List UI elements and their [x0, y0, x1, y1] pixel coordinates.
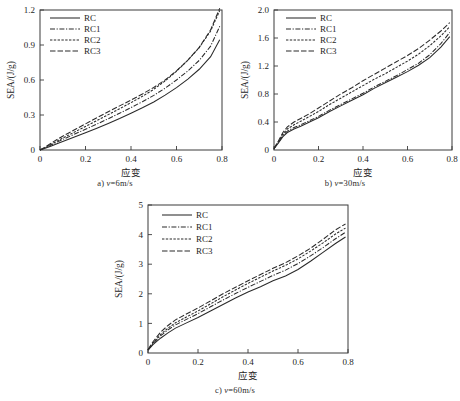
x-axis-label: 应变 [353, 167, 373, 178]
x-tick-label: 0.2 [313, 154, 324, 164]
y-tick-label: 2 [139, 289, 144, 299]
y-tick-label: 0.3 [24, 110, 36, 120]
legend-label-rc2: RC2 [84, 35, 101, 45]
x-tick-label: 0.6 [292, 357, 304, 367]
series-line-rc1 [40, 26, 220, 150]
y-tick-label: 2.0 [258, 5, 270, 15]
x-tick-label: 0.8 [446, 154, 458, 164]
caption-b-value: =30m/s [339, 178, 366, 188]
chart-b-plot: 00.20.40.60.800.40.81.21.62.0应变SEA/(J/g)… [230, 0, 460, 178]
series-line-rc1 [274, 32, 450, 148]
series-line-rc [274, 37, 450, 149]
figure-container: 00.20.40.60.800.30.60.91.2应变SEA/(J/g)RCR… [0, 0, 460, 401]
series-line-rc3 [274, 23, 450, 149]
caption-c-value: =60m/s [228, 385, 255, 395]
x-tick-label: 0.6 [402, 154, 414, 164]
x-axis-label: 应变 [121, 167, 141, 178]
series-line-rc2 [40, 11, 220, 150]
y-tick-label: 1 [139, 319, 144, 329]
caption-a-prefix: a) [97, 178, 104, 188]
x-tick-label: 0 [38, 154, 43, 164]
legend: RCRC1RC2RC3 [50, 13, 101, 56]
legend: RCRC1RC2RC3 [162, 210, 213, 256]
series-line-rc1 [148, 232, 346, 350]
legend-label-rc3: RC3 [84, 46, 101, 56]
caption-b-prefix: b) [325, 178, 332, 188]
y-tick-label: 0.8 [258, 89, 270, 99]
chart-a-plot: 00.20.40.60.800.30.60.91.2应变SEA/(J/g)RCR… [0, 0, 230, 178]
series-line-rc [148, 237, 346, 350]
x-tick-label: 0.8 [216, 154, 228, 164]
x-tick-label: 0.4 [125, 154, 137, 164]
y-tick-label: 0 [31, 145, 36, 155]
x-axis-label: 应变 [238, 370, 258, 381]
y-tick-label: 1.2 [258, 61, 269, 71]
x-tick-label: 0.2 [80, 154, 91, 164]
caption-c-prefix: c) [215, 385, 222, 395]
chart-panel-b: 00.20.40.60.800.40.81.21.62.0应变SEA/(J/g)… [230, 0, 460, 192]
caption-c: c) v=60m/s [110, 385, 360, 395]
legend-label-rc: RC [196, 210, 208, 220]
series-line-rc3 [148, 224, 346, 350]
plot-frame [40, 10, 222, 150]
y-tick-label: 3 [139, 259, 144, 269]
x-tick-label: 0 [146, 357, 151, 367]
legend-label-rc1: RC1 [196, 222, 213, 232]
x-tick-label: 0.4 [357, 154, 369, 164]
legend-label-rc3: RC3 [196, 246, 213, 256]
legend-label-rc1: RC1 [320, 24, 337, 34]
y-axis-label: SEA/(J/g) [6, 61, 17, 99]
x-tick-label: 0.4 [242, 357, 254, 367]
plot-frame [274, 10, 452, 150]
y-tick-label: 1.6 [258, 33, 270, 43]
legend-label-rc1: RC1 [84, 24, 101, 34]
y-tick-label: 0 [139, 348, 144, 358]
chart-c-plot: 00.20.40.60.8012345应变SEA/(J/g)RCRC1RC2RC… [110, 195, 360, 385]
legend-label-rc2: RC2 [320, 35, 337, 45]
x-tick-label: 0 [272, 154, 277, 164]
y-tick-label: 4 [139, 230, 144, 240]
y-tick-label: 0.4 [258, 117, 270, 127]
y-axis-label: SEA/(J/g) [114, 260, 125, 298]
x-tick-label: 0.2 [192, 357, 203, 367]
chart-panel-a: 00.20.40.60.800.30.60.91.2应变SEA/(J/g)RCR… [0, 0, 230, 192]
chart-panel-c: 00.20.40.60.8012345应变SEA/(J/g)RCRC1RC2RC… [110, 195, 360, 401]
y-tick-label: 0.6 [24, 75, 36, 85]
x-tick-label: 0.8 [342, 357, 354, 367]
x-tick-label: 0.6 [171, 154, 183, 164]
series-line-rc2 [148, 228, 346, 350]
legend-label-rc: RC [320, 13, 332, 23]
legend-label-rc2: RC2 [196, 234, 213, 244]
legend-label-rc: RC [84, 13, 96, 23]
y-axis-label: SEA/(J/g) [240, 61, 251, 99]
y-tick-label: 1.2 [24, 5, 35, 15]
y-tick-label: 5 [139, 200, 144, 210]
y-tick-label: 0.9 [24, 40, 36, 50]
y-tick-label: 0 [265, 145, 270, 155]
caption-b: b) v=30m/s [230, 178, 460, 188]
caption-a-value: =6m/s [111, 178, 133, 188]
legend: RCRC1RC2RC3 [286, 13, 337, 56]
legend-label-rc3: RC3 [320, 46, 337, 56]
caption-a: a) v=6m/s [0, 178, 230, 188]
